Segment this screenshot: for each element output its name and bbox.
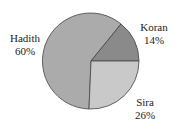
label-sira-name: Sira bbox=[132, 96, 158, 109]
label-sira-pct: 26% bbox=[132, 109, 158, 122]
label-koran: Koran 14% bbox=[136, 21, 172, 47]
label-hadith-pct: 60% bbox=[6, 45, 44, 58]
label-sira: Sira 26% bbox=[132, 96, 158, 122]
label-koran-name: Koran bbox=[136, 21, 172, 34]
label-hadith: Hadith 60% bbox=[6, 32, 44, 58]
label-hadith-name: Hadith bbox=[6, 32, 44, 45]
label-koran-pct: 14% bbox=[136, 34, 172, 47]
